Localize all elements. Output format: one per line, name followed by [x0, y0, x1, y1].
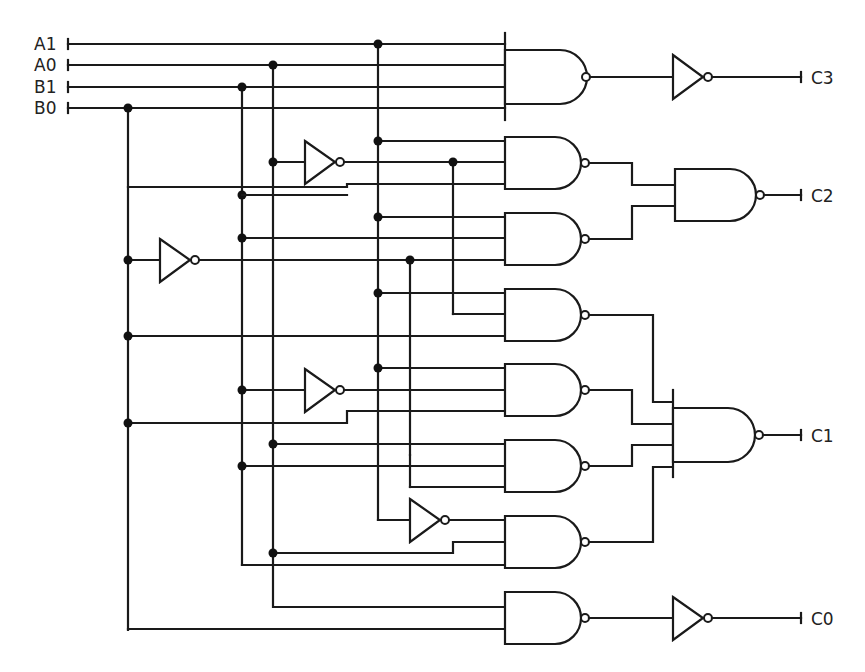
nand-gate-c1-a [128, 289, 672, 402]
nand-gate-c2-b [200, 206, 675, 265]
output-label-c0: C0 [811, 609, 834, 629]
nand-gate-c2-a [128, 137, 675, 189]
nand-gate-c1-b [128, 364, 672, 424]
not-gate-c3 [673, 55, 801, 99]
not-gate-c0 [673, 597, 801, 640]
input-label-b0: B0 [34, 98, 56, 118]
not-gate-a0 [273, 141, 344, 184]
input-bus [68, 44, 505, 108]
nand-gate-c1-d [242, 467, 672, 568]
nand-gate-c1-c [242, 440, 672, 492]
output-label-c1: C1 [811, 426, 834, 446]
not-gate-b1 [242, 369, 344, 412]
nand-gate-c1-out [673, 390, 801, 477]
input-label-a1: A1 [34, 34, 56, 54]
output-label-c2: C2 [811, 186, 834, 206]
input-label-a0: A0 [34, 55, 56, 75]
not-gate-b0 [128, 239, 199, 282]
junction-dots [124, 40, 458, 558]
not-gate-a1 [410, 499, 449, 542]
logic-circuit-diagram: A1 A0 B1 B0 C3 [0, 0, 865, 672]
nand-gate-c2-out [675, 169, 801, 221]
output-label-c3: C3 [811, 68, 834, 88]
input-label-b1: B1 [34, 77, 56, 97]
nand-gate-c0 [128, 592, 673, 644]
nand-gate-c3 [505, 33, 672, 120]
